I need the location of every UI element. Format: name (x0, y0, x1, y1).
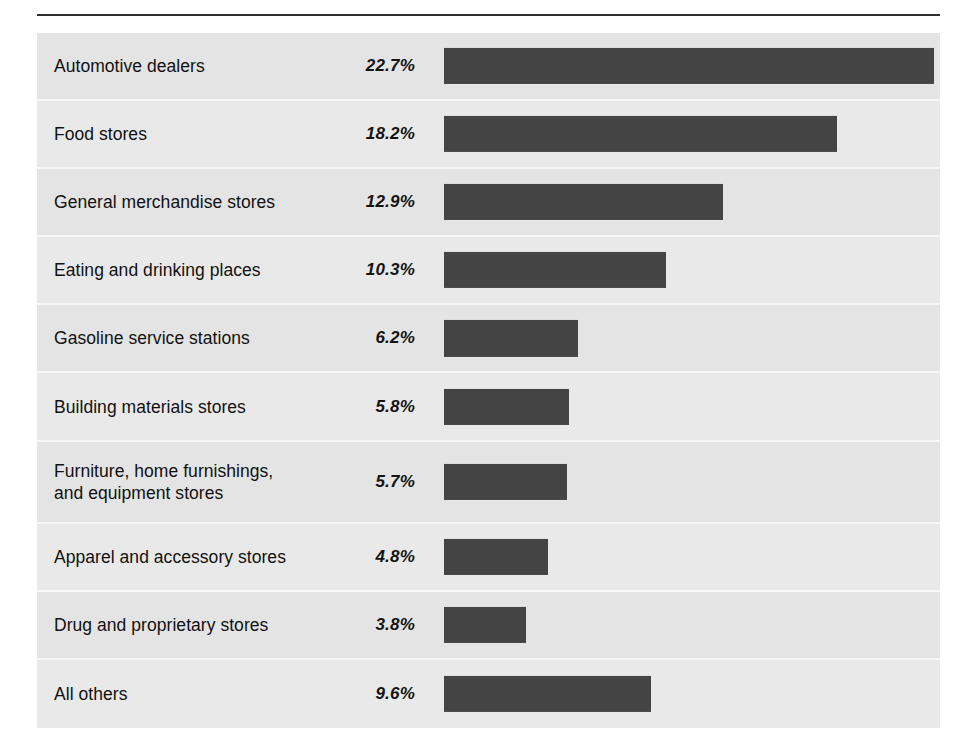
category-label: All others (54, 683, 354, 705)
chart-row-inner: Automotive dealers22.7% (37, 33, 940, 99)
category-label: Drug and proprietary stores (54, 614, 354, 636)
chart-row-inner: Food stores18.2% (37, 101, 940, 167)
value-label: 22.7% (337, 56, 415, 76)
bar-track (444, 592, 940, 658)
category-label: Food stores (54, 123, 354, 145)
bar (444, 464, 567, 500)
bar (444, 320, 578, 356)
value-label: 6.2% (337, 328, 415, 348)
bar (444, 607, 526, 643)
bar (444, 48, 934, 84)
bar-track (444, 373, 940, 439)
category-label: Eating and drinking places (54, 259, 354, 281)
category-label: Apparel and accessory stores (54, 546, 354, 568)
category-label: General merchandise stores (54, 191, 354, 213)
chart-row-inner: General merchandise stores12.9% (37, 169, 940, 235)
chart-row: All others9.6% (37, 660, 940, 728)
bar-chart-figure: Automotive dealers22.7%Food stores18.2%G… (0, 0, 976, 755)
value-label: 5.8% (337, 397, 415, 417)
chart-row-inner: Building materials stores5.8% (37, 373, 940, 439)
bar-track (444, 237, 940, 303)
bar (444, 676, 651, 712)
top-rule-divider (37, 14, 940, 16)
chart-row: Building materials stores5.8% (37, 373, 940, 441)
value-label: 4.8% (337, 547, 415, 567)
chart-row: Food stores18.2% (37, 101, 940, 169)
chart-panel: Automotive dealers22.7%Food stores18.2%G… (37, 33, 940, 728)
category-label: Building materials stores (54, 396, 354, 418)
chart-row: Eating and drinking places10.3% (37, 237, 940, 305)
bar (444, 252, 666, 288)
value-label: 12.9% (337, 192, 415, 212)
chart-row: General merchandise stores12.9% (37, 169, 940, 237)
category-label: Automotive dealers (54, 55, 354, 77)
chart-row-inner: Eating and drinking places10.3% (37, 237, 940, 303)
chart-row: Furniture, home furnishings, and equipme… (37, 442, 940, 524)
category-label: Gasoline service stations (54, 327, 354, 349)
chart-row-inner: Furniture, home furnishings, and equipme… (37, 442, 940, 522)
bar-track (444, 33, 940, 99)
chart-row: Drug and proprietary stores3.8% (37, 592, 940, 660)
bar (444, 184, 723, 220)
chart-row: Gasoline service stations6.2% (37, 305, 940, 373)
chart-row-inner: Gasoline service stations6.2% (37, 305, 940, 371)
chart-row-inner: Drug and proprietary stores3.8% (37, 592, 940, 658)
chart-row: Automotive dealers22.7% (37, 33, 940, 101)
value-label: 18.2% (337, 124, 415, 144)
category-label: Furniture, home furnishings, and equipme… (54, 460, 354, 504)
chart-row: Apparel and accessory stores4.8% (37, 524, 940, 592)
bar-track (444, 305, 940, 371)
bar-track (444, 101, 940, 167)
bar-track (444, 169, 940, 235)
bar (444, 539, 548, 575)
bar-track (444, 442, 940, 522)
bar (444, 116, 837, 152)
value-label: 5.7% (337, 472, 415, 492)
chart-row-inner: All others9.6% (37, 660, 940, 728)
chart-row-inner: Apparel and accessory stores4.8% (37, 524, 940, 590)
value-label: 9.6% (337, 684, 415, 704)
value-label: 3.8% (337, 615, 415, 635)
bar-track (444, 524, 940, 590)
bar (444, 388, 569, 424)
bar-track (444, 660, 940, 728)
value-label: 10.3% (337, 260, 415, 280)
